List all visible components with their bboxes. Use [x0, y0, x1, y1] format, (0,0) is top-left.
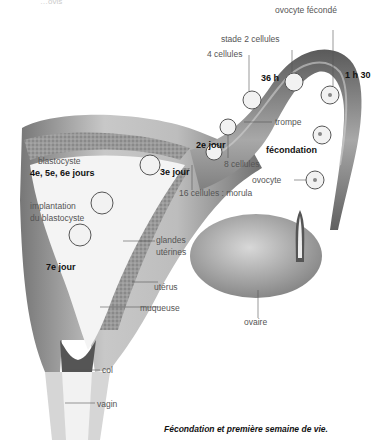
label-ovocyte: ovocyte	[252, 176, 281, 185]
label-fecondation: fécondation	[266, 146, 317, 155]
label-1h30: 1 h 30	[345, 71, 371, 80]
label-trompe: trompe	[275, 118, 301, 127]
label-7e-jour: 7e jour	[46, 263, 76, 272]
label-2e-jour: 2e jour	[196, 141, 226, 150]
label-uterus: utérus	[154, 283, 178, 292]
fertilization-diagram	[0, 0, 392, 448]
label-ovaire: ovaire	[244, 318, 267, 327]
label-morula: 16 cellules : morula	[179, 189, 252, 198]
label-vagin: vagin	[97, 400, 117, 409]
label-36h: 36 h	[261, 74, 279, 83]
label-ovocyte-feconde: ovocyte fécondé	[275, 6, 337, 15]
label-8-cellules: 8 cellules	[224, 160, 259, 169]
label-uterines: utérines	[156, 248, 186, 257]
label-muqueuse: muqueuse	[140, 304, 180, 313]
label-blastocyste: blastocyste	[38, 157, 81, 166]
label-4-5-6-jours: 4e, 5e, 6e jours	[30, 169, 95, 178]
label-col: col	[102, 366, 113, 375]
label-implantation: implantation	[30, 202, 76, 211]
label-stade-2-cellules: stade 2 cellules	[221, 35, 280, 44]
label-glandes: glandes	[156, 236, 186, 245]
label-3e-jour: 3e jour	[160, 168, 190, 177]
label-du-blastocyste: du blastocyste	[30, 214, 84, 223]
figure-caption: Fécondation et première semaine de vie.	[164, 424, 328, 434]
label-4-cellules: 4 cellules	[207, 50, 242, 59]
